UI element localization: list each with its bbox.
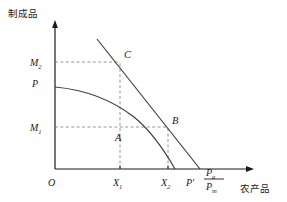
origin-label: O (48, 177, 55, 188)
x-tick-label-p-prime: P′ (185, 177, 195, 188)
y-tick-label-p: P (31, 78, 38, 89)
x-axis-title: 农产品 (240, 183, 270, 194)
point-label-c: C (124, 49, 132, 60)
y-axis-title: 制成品 (8, 8, 38, 19)
point-label-b: B (172, 115, 179, 126)
figure-background (0, 0, 287, 202)
ppf-price-line-diagram: M2 P M1 O X1 X2 P′ Pa Pm C A B 制成品 农产品 (0, 0, 287, 202)
point-label-a: A (114, 132, 122, 143)
